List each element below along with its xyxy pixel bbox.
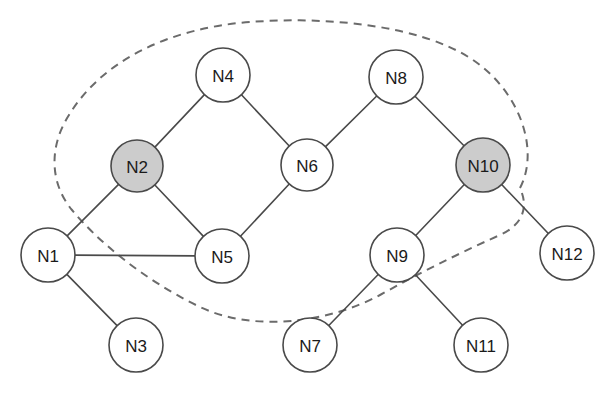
node-circle-n1[interactable] <box>21 228 75 282</box>
edge-n8-n10 <box>414 95 464 146</box>
edge-n9-n11 <box>415 274 464 326</box>
node-n6[interactable]: N6 <box>281 139 333 191</box>
node-n1[interactable]: N1 <box>21 228 75 282</box>
graph-diagram: N1N2N3N4N5N6N7N8N9N10N11N12 <box>0 0 616 399</box>
node-circle-n3[interactable] <box>109 318 163 372</box>
node-circle-n10[interactable] <box>456 138 510 192</box>
node-circle-n8[interactable] <box>369 50 423 104</box>
node-n9[interactable]: N9 <box>370 228 424 282</box>
edge-n1-n2 <box>66 184 119 237</box>
node-layer: N1N2N3N4N5N6N7N8N9N10N11N12 <box>21 48 594 372</box>
graph-canvas: N1N2N3N4N5N6N7N8N9N10N11N12 <box>0 0 616 399</box>
edge-n10-n12 <box>501 184 549 234</box>
edge-n4-n6 <box>241 94 290 147</box>
edge-n10-n9 <box>415 184 465 236</box>
node-n12[interactable]: N12 <box>540 226 594 280</box>
node-circle-n9[interactable] <box>370 228 424 282</box>
edge-n5-n6 <box>240 183 290 237</box>
node-circle-n11[interactable] <box>454 318 508 372</box>
edge-n1-n5 <box>74 255 196 256</box>
edge-n2-n4 <box>154 94 205 148</box>
edge-n2-n5 <box>154 184 204 237</box>
node-circle-n5[interactable] <box>195 229 249 283</box>
node-n4[interactable]: N4 <box>196 48 250 102</box>
node-n3[interactable]: N3 <box>109 318 163 372</box>
node-n2[interactable]: N2 <box>111 140 163 192</box>
node-n7[interactable]: N7 <box>283 318 337 372</box>
node-circle-n6[interactable] <box>281 139 333 191</box>
node-circle-n12[interactable] <box>540 226 594 280</box>
node-circle-n4[interactable] <box>196 48 250 102</box>
node-circle-n2[interactable] <box>111 140 163 192</box>
node-n8[interactable]: N8 <box>369 50 423 104</box>
edge-n6-n8 <box>325 95 378 147</box>
node-circle-n7[interactable] <box>283 318 337 372</box>
edge-n1-n3 <box>66 274 118 327</box>
node-n11[interactable]: N11 <box>454 318 508 372</box>
node-n10[interactable]: N10 <box>456 138 510 192</box>
edge-layer <box>66 94 549 327</box>
node-n5[interactable]: N5 <box>195 229 249 283</box>
